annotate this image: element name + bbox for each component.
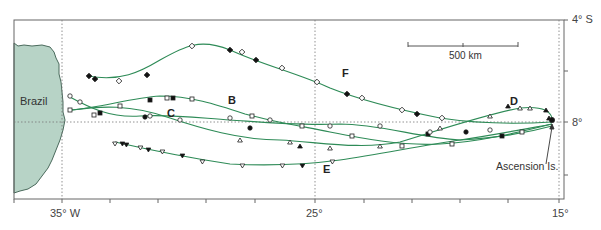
y-tick-8: 8° bbox=[572, 116, 583, 128]
land-label: Brazil bbox=[20, 95, 48, 107]
x-tick-35w: 35° W bbox=[50, 207, 80, 219]
track-label-b: B bbox=[228, 94, 236, 106]
x-tick-15: 15° bbox=[552, 207, 569, 219]
island-label: Ascension Is. bbox=[496, 160, 558, 172]
x-tick-25: 25° bbox=[306, 207, 323, 219]
track-f bbox=[88, 44, 552, 123]
scale-bar-label: 500 km bbox=[449, 50, 482, 61]
brazil-landmass bbox=[14, 43, 65, 193]
y-tick-4s: 4° S bbox=[572, 13, 593, 25]
ocean-map bbox=[0, 0, 601, 230]
ascension-arrow bbox=[546, 124, 554, 164]
track-label-f: F bbox=[342, 67, 349, 79]
ascension-island-marker bbox=[549, 117, 554, 122]
scale-bar bbox=[408, 42, 518, 47]
track-label-c: C bbox=[167, 107, 175, 119]
track-label-e: E bbox=[323, 163, 330, 175]
track-label-d: D bbox=[510, 95, 518, 107]
